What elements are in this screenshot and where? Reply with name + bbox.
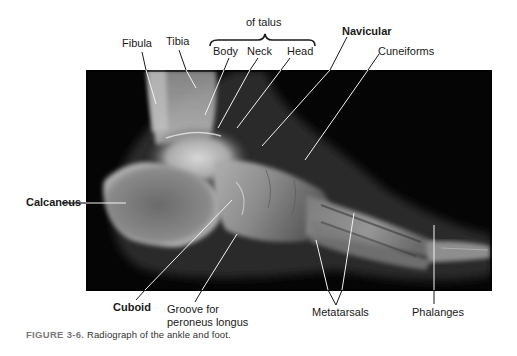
figure-number: FIGURE 3-6. [26, 329, 84, 340]
figure: of talus Fibula Tibia Body Neck Head Nav… [0, 0, 517, 356]
label-cuneiforms: Cuneiforms [378, 45, 434, 58]
label-metatarsals: Metatarsals [312, 306, 369, 319]
label-neck: Neck [247, 45, 272, 58]
label-of-talus: of talus [246, 16, 281, 29]
label-head: Head [287, 45, 313, 58]
figure-caption-text: Radiograph of the ankle and foot. [84, 329, 231, 340]
label-tibia: Tibia [166, 35, 189, 48]
figure-caption: FIGURE 3-6. Radiograph of the ankle and … [26, 329, 231, 340]
label-cuboid: Cuboid [113, 301, 151, 314]
label-fibula: Fibula [122, 37, 152, 50]
label-calcaneus: Calcaneus [26, 196, 81, 209]
label-navicular: Navicular [342, 25, 392, 38]
label-body: Body [213, 45, 238, 58]
label-phalanges: Phalanges [412, 306, 464, 319]
label-groove-line2: peroneus longus [167, 316, 248, 329]
label-groove-line1: Groove for [167, 303, 219, 316]
